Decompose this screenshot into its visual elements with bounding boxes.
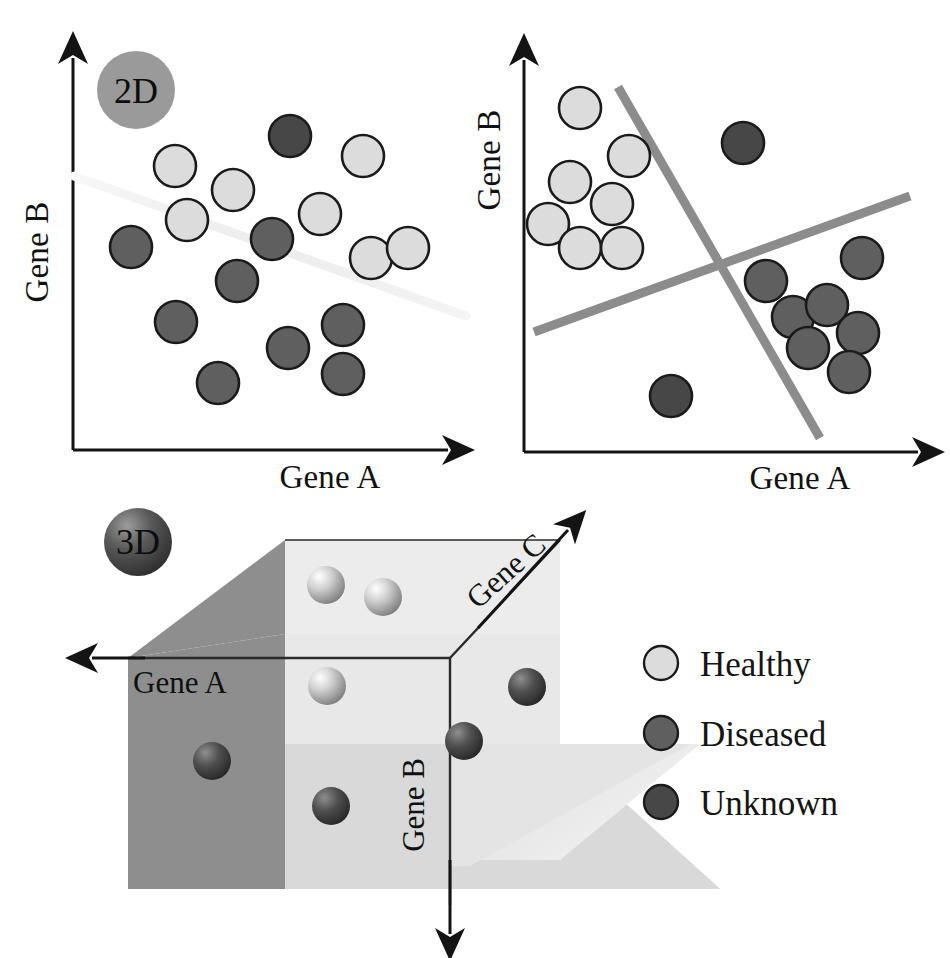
data-point-diseased <box>267 327 309 369</box>
legend-item-unknown: Unknown <box>644 784 838 823</box>
diseased-dot-group <box>110 218 364 404</box>
panel-3d-cube: 3D Gene A Gene B Gene C <box>92 508 720 934</box>
data-point-healthy <box>166 199 208 241</box>
data-point-diseased <box>155 301 197 343</box>
data-point-diseased <box>841 237 883 279</box>
data-point-diseased <box>110 226 152 268</box>
data-point-healthy <box>601 227 643 269</box>
data-point-diseased <box>322 353 364 395</box>
legend-item-healthy: Healthy <box>644 645 811 684</box>
badge-3d-label: 3D <box>116 522 160 562</box>
panel-top-left: 2D Gene B Gene A <box>19 51 466 495</box>
data-point-diseased <box>828 351 870 393</box>
data-point-healthy-3d <box>308 667 346 705</box>
legend: Healthy Diseased Unknown <box>644 645 838 823</box>
data-point-healthy <box>591 183 633 225</box>
data-point-unknown <box>722 122 764 164</box>
legend-label-unknown: Unknown <box>700 784 838 823</box>
cube-label-gene-b: Gene B <box>396 758 431 852</box>
badge-3d: 3D <box>104 508 172 576</box>
data-point-diseased <box>197 362 239 404</box>
diseased-dot-group-right <box>745 237 883 393</box>
data-point-healthy <box>212 169 254 211</box>
y-axis-label-right: Gene B <box>471 109 507 210</box>
legend-swatch-unknown <box>644 785 678 819</box>
data-point-healthy <box>608 135 650 177</box>
panel-top-right: Gene B Gene A <box>471 60 918 496</box>
data-point-healthy <box>350 237 392 279</box>
x-axis-label-right: Gene A <box>749 460 850 496</box>
legend-label-healthy: Healthy <box>700 645 811 684</box>
data-point-diseased <box>322 304 364 346</box>
cube-label-gene-a: Gene A <box>133 665 227 700</box>
legend-label-diseased: Diseased <box>700 715 827 754</box>
y-axis-label-left: Gene B <box>19 201 55 302</box>
badge-2d: 2D <box>97 51 175 129</box>
data-point-healthy <box>559 227 601 269</box>
data-point-diseased <box>216 260 258 302</box>
data-point-diseased-3d <box>193 742 231 780</box>
data-point-unknown-3d <box>508 668 546 706</box>
data-point-healthy <box>299 193 341 235</box>
figure-root: 2D Gene B Gene A <box>0 0 950 958</box>
data-point-healthy-3d <box>364 578 402 616</box>
data-point-diseased <box>787 327 829 369</box>
data-point-healthy <box>559 87 601 129</box>
x-axis-label-left: Gene A <box>279 459 380 495</box>
data-point-unknown-3d <box>445 722 483 760</box>
legend-swatch-diseased <box>644 716 678 750</box>
data-point-healthy <box>549 161 591 203</box>
data-point-healthy <box>387 227 429 269</box>
badge-2d-label: 2D <box>114 71 158 111</box>
diagram-canvas: 2D Gene B Gene A <box>0 0 950 958</box>
data-point-diseased <box>251 218 293 260</box>
data-point-diseased-3d <box>312 787 350 825</box>
data-point-diseased <box>745 260 787 302</box>
data-point-unknown <box>269 115 311 157</box>
data-point-healthy <box>154 145 196 187</box>
data-point-healthy-3d <box>307 566 345 604</box>
data-point-healthy <box>342 135 384 177</box>
data-point-unknown <box>650 375 692 417</box>
data-point-diseased <box>837 312 879 354</box>
legend-swatch-healthy <box>644 646 678 680</box>
